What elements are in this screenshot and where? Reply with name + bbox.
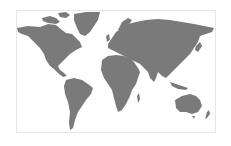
madagascar-shape [137,93,140,103]
north-america-shape [17,24,82,77]
world-map [0,0,231,146]
arctic-islands-shape [42,12,70,24]
africa-shape [101,55,140,112]
britain-shape [106,34,110,42]
south-america-shape [64,78,93,130]
australia-shape [175,94,202,114]
new-zealand-shape [205,110,210,119]
indonesia-shape [170,82,188,90]
greenland-shape [74,12,100,36]
tasmania-shape [192,116,195,119]
